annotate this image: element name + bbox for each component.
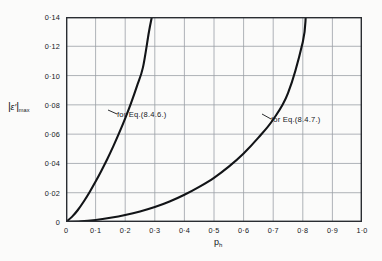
y-tick-label-3: 0·06 xyxy=(26,130,60,139)
x-axis-title: ph xyxy=(214,237,222,248)
x-tick-label-1: 0·1 xyxy=(90,226,101,235)
x-axis-title-subscript: h xyxy=(219,242,222,248)
y-tick-label-6: 0·12 xyxy=(26,42,60,51)
x-tick-label-3: 0·3 xyxy=(149,226,160,235)
y-tick-label-4: 0·08 xyxy=(26,100,60,109)
x-tick-label-7: 0·7 xyxy=(268,226,279,235)
chart-figure: |ε′|max 0 0·02 0·04 0·06 0·08 0·10 0·12 … xyxy=(0,0,382,261)
x-tick-label-5: 0·5 xyxy=(209,226,220,235)
x-tick-label-6: 0·6 xyxy=(238,226,249,235)
grid-lines xyxy=(66,17,362,222)
x-tick-label-4: 0·4 xyxy=(179,226,190,235)
curve-series-0 xyxy=(66,17,152,222)
y-tick-label-5: 0·10 xyxy=(26,71,60,80)
annotation-leader-lines xyxy=(108,110,271,119)
y-tick-label-1: 0·02 xyxy=(26,188,60,197)
x-tick-label-8: 0·8 xyxy=(297,226,308,235)
y-tick-label-7: 0·14 xyxy=(26,13,60,22)
x-tick-label-0: 0 xyxy=(64,226,68,235)
x-tick-label-10: 1·0 xyxy=(357,226,368,235)
data-curves xyxy=(66,17,306,222)
plot-area xyxy=(66,17,362,222)
curve-series-1 xyxy=(66,17,306,222)
x-tick-label-9: 0·9 xyxy=(327,226,338,235)
annotation-leader-line xyxy=(108,110,117,114)
x-tick-label-2: 0·2 xyxy=(120,226,131,235)
annotation-leader-line xyxy=(262,114,271,119)
plot-canvas xyxy=(66,17,362,222)
y-tick-label-0: 0 xyxy=(26,218,60,227)
y-tick-label-2: 0·04 xyxy=(26,159,60,168)
